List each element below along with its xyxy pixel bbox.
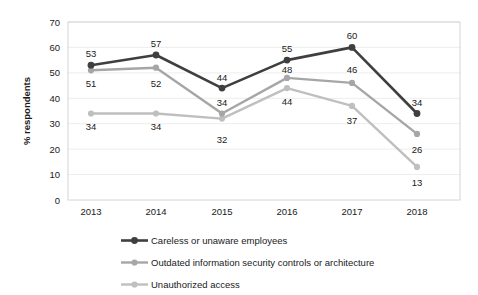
data-label: 34 bbox=[412, 97, 423, 108]
legend-item-label: Unauthorized access bbox=[151, 279, 240, 290]
data-label: 48 bbox=[282, 64, 293, 75]
y-axis-ticks: 70 60 50 40 30 20 10 0 bbox=[49, 17, 60, 206]
data-point bbox=[153, 110, 159, 116]
data-point bbox=[153, 52, 160, 59]
y-tick-label-50: 50 bbox=[49, 67, 60, 78]
data-label: 46 bbox=[347, 64, 358, 75]
y-tick-label-10: 10 bbox=[49, 169, 60, 180]
x-tick-label-2013: 2013 bbox=[80, 206, 101, 217]
legend-item-outdated-infosec-controls[interactable]: Outdated information security controls o… bbox=[121, 257, 374, 268]
y-tick-label-70: 70 bbox=[49, 17, 60, 28]
plot-background bbox=[68, 22, 460, 200]
legend-marker-icon bbox=[131, 237, 138, 244]
data-label: 26 bbox=[412, 144, 423, 155]
data-point bbox=[349, 103, 355, 109]
data-label: 34 bbox=[151, 121, 162, 132]
data-label: 34 bbox=[217, 97, 228, 108]
line-chart-figure: 70 60 50 40 30 20 10 0 % respondents 201… bbox=[0, 0, 478, 295]
legend-item-label: Careless or unaware employees bbox=[151, 235, 287, 246]
y-tick-label-20: 20 bbox=[49, 144, 60, 155]
data-point bbox=[284, 57, 291, 64]
data-label: 13 bbox=[412, 177, 423, 188]
data-label: 51 bbox=[86, 78, 97, 89]
y-axis-title: % respondents bbox=[21, 77, 32, 145]
data-point bbox=[88, 110, 94, 116]
data-label: 32 bbox=[217, 134, 228, 145]
data-point bbox=[414, 131, 420, 137]
data-point bbox=[284, 75, 290, 81]
data-point bbox=[153, 65, 159, 71]
legend-item-careless-unaware-employees[interactable]: Careless or unaware employees bbox=[121, 235, 287, 246]
chart-canvas: 70 60 50 40 30 20 10 0 % respondents 201… bbox=[0, 0, 478, 295]
data-point bbox=[414, 110, 421, 117]
data-label: 53 bbox=[86, 48, 97, 59]
data-point bbox=[219, 85, 226, 92]
data-point bbox=[349, 44, 356, 51]
data-point bbox=[414, 164, 420, 170]
legend-marker-icon bbox=[131, 259, 137, 265]
data-point bbox=[88, 62, 95, 69]
chart-legend: Careless or unaware employees Outdated i… bbox=[121, 235, 374, 290]
x-tick-label-2017: 2017 bbox=[341, 206, 362, 217]
data-label: 55 bbox=[282, 43, 293, 54]
data-label: 44 bbox=[282, 96, 293, 107]
x-tick-label-2016: 2016 bbox=[276, 206, 297, 217]
y-tick-label-60: 60 bbox=[49, 42, 60, 53]
data-label: 44 bbox=[217, 72, 228, 83]
y-tick-label-30: 30 bbox=[49, 118, 60, 129]
data-label: 60 bbox=[347, 30, 358, 41]
legend-marker-icon bbox=[131, 281, 137, 287]
x-axis-ticks: 2013 2014 2015 2016 2017 2018 bbox=[80, 206, 427, 217]
data-label: 57 bbox=[151, 38, 162, 49]
data-point bbox=[219, 110, 225, 116]
x-tick-label-2018: 2018 bbox=[406, 206, 427, 217]
legend-item-unauthorized-access[interactable]: Unauthorized access bbox=[121, 279, 240, 290]
x-tick-label-2014: 2014 bbox=[145, 206, 166, 217]
data-label: 52 bbox=[151, 78, 162, 89]
data-point bbox=[284, 85, 290, 91]
data-label: 34 bbox=[86, 121, 97, 132]
legend-item-label: Outdated information security controls o… bbox=[151, 257, 374, 268]
data-point bbox=[349, 80, 355, 86]
data-label: 37 bbox=[347, 115, 358, 126]
y-tick-label-40: 40 bbox=[49, 93, 60, 104]
y-tick-label-0: 0 bbox=[55, 195, 60, 206]
x-tick-label-2015: 2015 bbox=[211, 206, 232, 217]
